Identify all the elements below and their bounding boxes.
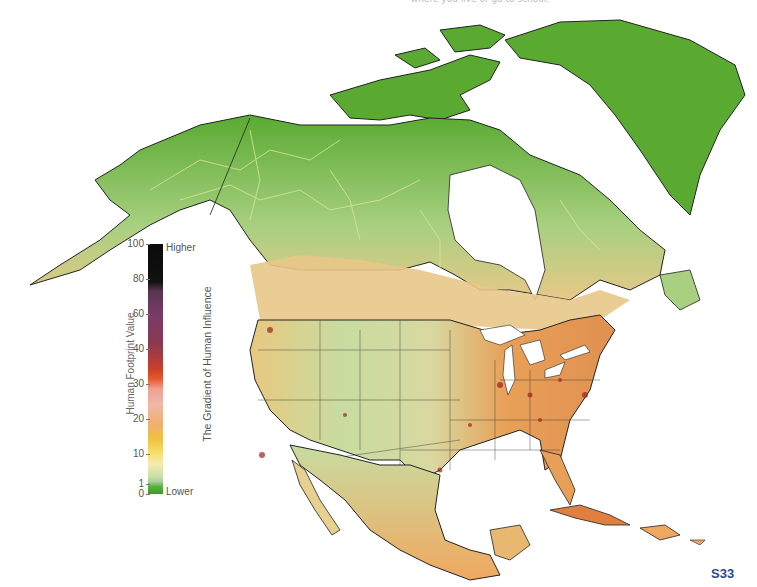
tick-label: 20 — [104, 414, 144, 424]
tick-label: 0 — [104, 489, 144, 499]
tick-mark — [146, 384, 150, 385]
legend-high-label: Higher — [166, 242, 195, 253]
tick-mark — [146, 419, 150, 420]
tick-label: 60 — [104, 309, 144, 319]
human-footprint-legend: Human Footprint Value 100 80 60 40 30 20… — [100, 238, 240, 503]
tick-mark — [146, 454, 150, 455]
tick-mark — [146, 484, 150, 485]
tick-label: 100 — [104, 239, 144, 249]
tick-mark — [146, 279, 150, 280]
florida — [540, 450, 575, 505]
cuba — [550, 505, 630, 525]
page-number: S33 — [711, 566, 734, 581]
tick-label: 80 — [104, 274, 144, 284]
legend-color-bar — [148, 244, 163, 494]
tick-label: 10 — [104, 449, 144, 459]
tick-mark — [146, 314, 150, 315]
legend-gradient-title: The Gradient of Human Influence — [201, 279, 213, 449]
tick-label: 30 — [104, 379, 144, 389]
legend-low-label: Lower — [166, 486, 193, 497]
tick-mark — [146, 349, 150, 350]
tick-label: 40 — [104, 344, 144, 354]
tick-mark — [146, 494, 150, 495]
tick-mark — [146, 244, 150, 245]
hispaniola — [640, 525, 680, 540]
